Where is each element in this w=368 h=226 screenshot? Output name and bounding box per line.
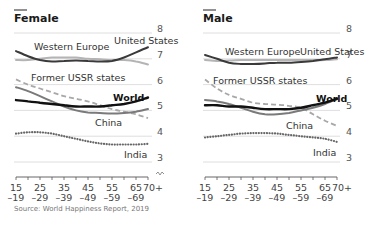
x-tick-label-sub: –29 xyxy=(221,192,238,203)
x-tick-label-sub: –19 xyxy=(197,192,214,203)
panel-title: Male xyxy=(203,12,233,25)
chart-canvas: Female34567815–1925–2935–3945–4955–5965–… xyxy=(0,0,368,226)
series-india xyxy=(205,133,337,142)
series-label: World xyxy=(316,93,347,104)
y-tick-label: 6 xyxy=(346,75,352,86)
series-label: Western Europe xyxy=(225,46,301,57)
series-label: Western Europe xyxy=(34,41,110,52)
x-tick-label-sub: –19 xyxy=(8,192,25,203)
y-tick-label: 3 xyxy=(157,152,163,163)
x-tick-label-sub: –59 xyxy=(293,192,310,203)
y-tick-label: 3 xyxy=(346,152,352,163)
y-tick-label: 8 xyxy=(157,23,163,34)
y-tick-label: 8 xyxy=(346,23,352,34)
x-tick-label: 70+ xyxy=(332,182,352,193)
y-tick-label: 4 xyxy=(346,126,352,137)
x-tick-label-sub: –59 xyxy=(104,192,121,203)
y-tick-label: 6 xyxy=(157,75,163,86)
x-tick-label-sub: –29 xyxy=(32,192,49,203)
x-tick-label-sub: –39 xyxy=(245,192,262,203)
y-tick-label: 5 xyxy=(157,100,163,111)
series-label: World xyxy=(113,92,144,103)
female-panel: Female34567815–1925–2935–3945–4955–5965–… xyxy=(8,10,179,203)
series-india xyxy=(16,132,148,144)
x-tick-label: 70+ xyxy=(143,182,163,193)
axis-break-icon xyxy=(156,172,164,175)
x-tick-label-sub: –49 xyxy=(80,192,97,203)
x-tick-label-sub: –49 xyxy=(269,192,286,203)
series-label: China xyxy=(95,117,122,128)
y-tick-label: 7 xyxy=(157,49,163,60)
panel-title: Female xyxy=(14,12,59,25)
source-note: Source: World Happiness Report, 2019 xyxy=(14,205,149,213)
x-tick-label-sub: –69 xyxy=(317,192,334,203)
x-tick-label-sub: –39 xyxy=(56,192,73,203)
x-tick-label-sub: –69 xyxy=(128,192,145,203)
series-label: India xyxy=(124,149,147,160)
series-label: India xyxy=(313,147,336,158)
y-tick-label: 4 xyxy=(157,126,163,137)
series-label: Former USSR states xyxy=(31,72,125,83)
series-label: China xyxy=(286,120,313,131)
series-label: United States xyxy=(114,35,178,46)
series-label: United States xyxy=(300,46,364,57)
male-panel: Male34567815–1925–2935–3945–4955–5965–69… xyxy=(197,10,365,203)
series-label: Former USSR states xyxy=(213,75,307,86)
